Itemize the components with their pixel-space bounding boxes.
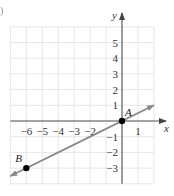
coordinate-plane: −6−5−4−3−2154321−1−2−3 AB x y ) — [0, 0, 174, 196]
y-tick-label: −1 — [106, 131, 118, 143]
point-label-a: A — [124, 106, 132, 118]
line-ab-segment — [82, 105, 154, 140]
y-tick-label: 2 — [113, 84, 119, 96]
x-tick-label: −6 — [20, 125, 32, 137]
x-tick-label: −4 — [52, 125, 64, 137]
grid-lines — [10, 27, 154, 184]
y-tick-label: 3 — [113, 68, 119, 80]
part-label: ) — [0, 5, 3, 17]
y-tick-label: −2 — [106, 146, 118, 158]
y-axis-label: y — [111, 9, 117, 21]
axes — [10, 13, 166, 184]
data-series — [10, 105, 154, 176]
y-tick-label: −3 — [106, 162, 118, 174]
x-tick-label: 1 — [135, 125, 141, 137]
point-b — [23, 165, 29, 171]
point-a — [119, 118, 125, 124]
y-tick-label: 4 — [113, 52, 119, 64]
x-tick-label: −3 — [68, 125, 80, 137]
x-axis-label: x — [163, 122, 169, 134]
x-tick-label: −5 — [36, 125, 48, 137]
y-tick-label: 5 — [113, 37, 119, 49]
y-tick-label: 1 — [113, 99, 119, 111]
point-label-b: B — [15, 152, 22, 164]
